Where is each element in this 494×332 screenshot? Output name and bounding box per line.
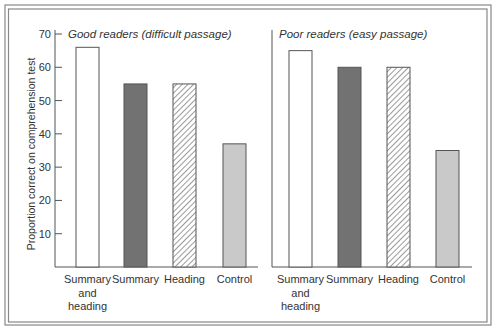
x-tick-label: Heading [164, 273, 205, 285]
bar-heading [387, 67, 410, 267]
panel-good-readers: Good readers (difficult passage)10203040… [39, 28, 258, 312]
x-tick-label: Summary [326, 273, 374, 285]
panel-poor-readers: Poor readers (easy passage)Summaryandhea… [272, 28, 472, 312]
bar-control [223, 144, 246, 267]
chart: Proportion correct on comprehension test… [0, 0, 494, 332]
x-tick-label: Control [217, 273, 252, 285]
x-tick-label: Summaryandheading [64, 273, 112, 312]
bar-summary-and-heading [289, 51, 312, 267]
bar-summary-and-heading [76, 47, 99, 267]
bar-control [436, 151, 459, 268]
x-tick-label: Summaryandheading [277, 273, 325, 312]
bar-summary [338, 67, 361, 267]
panel-title: Good readers (difficult passage) [68, 28, 232, 40]
y-tick-label: 10 [39, 228, 51, 240]
y-tick-label: 30 [39, 161, 51, 173]
panel-title: Poor readers (easy passage) [279, 28, 427, 40]
bar-summary [124, 84, 147, 267]
y-tick-label: 70 [39, 28, 51, 40]
bar-heading [173, 84, 196, 267]
y-tick-label: 50 [39, 95, 51, 107]
y-tick-label: 40 [39, 128, 51, 140]
x-tick-label: Summary [112, 273, 160, 285]
x-tick-label: Control [430, 273, 465, 285]
y-axis-label: Proportion correct on comprehension test [25, 58, 37, 251]
y-tick-label: 20 [39, 194, 51, 206]
x-tick-label: Heading [378, 273, 419, 285]
y-tick-label: 60 [39, 61, 51, 73]
